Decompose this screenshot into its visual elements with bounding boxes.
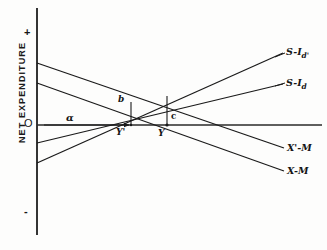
point-y-prime <box>130 124 132 126</box>
curve-label-s-i-d-prime-base: S-I <box>286 46 302 57</box>
label-alpha: α <box>66 113 74 123</box>
leader-s-i-d-prime <box>275 53 285 57</box>
curve-s-i-d-prime <box>37 53 283 163</box>
curve-label-x-minus-m: X-M <box>287 166 309 176</box>
origin-label: O <box>24 118 33 129</box>
curve-label-x-prime-minus-m: X'-M <box>287 143 312 153</box>
label-c: c <box>171 112 176 121</box>
positive-axis-sign: + <box>24 27 30 38</box>
plot-area <box>0 0 327 250</box>
curve-label-s-i-d-prime: S-Id' <box>286 47 309 60</box>
label-y: Y <box>158 129 164 138</box>
curve-label-s-i-d: S-Id <box>286 78 307 91</box>
label-y-prime: Y' <box>116 128 125 137</box>
curve-label-s-i-d-prime-subscript: d' <box>302 51 310 60</box>
label-b: b <box>118 95 124 104</box>
curve-label-s-i-d-subscript: d <box>302 82 307 91</box>
axis-title-net-expenditure: NET EXPENDITURE <box>18 33 27 153</box>
negative-axis-sign: - <box>24 206 28 217</box>
curve-x-minus-m <box>37 83 284 171</box>
point-y <box>165 123 168 126</box>
net-expenditure-diagram: NET EXPENDITURE + - O S-Id' S-Id X'-M X-… <box>0 0 327 250</box>
curve-label-s-i-d-base: S-I <box>286 77 302 88</box>
leader-s-i-d <box>275 83 285 86</box>
